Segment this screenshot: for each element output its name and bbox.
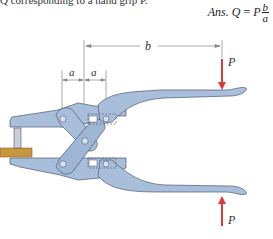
pin-lower-right bbox=[103, 161, 109, 167]
pin-center bbox=[82, 138, 88, 144]
wood-block bbox=[0, 148, 32, 157]
pin-upper-right bbox=[103, 116, 109, 122]
clamp-pad bbox=[14, 128, 21, 148]
dim-label-a-left: a bbox=[69, 66, 75, 78]
dim-label-a-right: a bbox=[91, 66, 97, 78]
force-arrow-top bbox=[218, 59, 226, 90]
force-label-bottom: P bbox=[227, 213, 236, 227]
pin-lower-left bbox=[60, 161, 66, 167]
pin-upper-left bbox=[60, 116, 66, 122]
dim-label-b: b bbox=[145, 39, 151, 53]
upper-handle bbox=[98, 87, 246, 124]
force-label-top: P bbox=[227, 55, 236, 69]
force-arrow-bottom bbox=[218, 196, 226, 226]
toggle-clamp-pliers-figure: b a a P P bbox=[0, 0, 273, 239]
